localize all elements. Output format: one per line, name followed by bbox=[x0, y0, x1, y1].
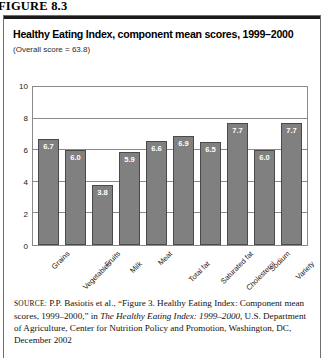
y-axis-tick-label: 2 bbox=[24, 210, 32, 219]
bar-slot: 6.7 bbox=[35, 87, 62, 245]
x-axis-label-slot: Fruits bbox=[88, 248, 115, 294]
figure-panel: Healthy Eating Index, component mean sco… bbox=[3, 15, 321, 358]
x-axis-tick-label: Milk bbox=[129, 260, 144, 275]
panel-top-rule bbox=[4, 16, 320, 19]
bar[interactable]: 6.5 bbox=[200, 142, 220, 245]
x-axis-tick-label: Variety bbox=[295, 260, 317, 282]
x-axis-label-slot: Variety bbox=[279, 248, 306, 294]
x-axis-label-slot: Meat bbox=[143, 248, 170, 294]
x-axis-label-slot: Grains bbox=[34, 248, 61, 294]
figure-number-label: FIGURE 8.3 bbox=[0, 0, 67, 13]
bar-slot: 6.5 bbox=[197, 87, 224, 245]
x-axis-category-labels: GrainsVegetablesFruitsMilkMeatTotal fatS… bbox=[32, 248, 308, 294]
bars-layer: 6.76.03.85.96.66.96.57.76.07.7 bbox=[33, 87, 307, 245]
bar[interactable]: 5.9 bbox=[119, 152, 139, 245]
bar-value-label: 6.5 bbox=[201, 145, 219, 154]
y-axis-tick-label: 0 bbox=[24, 242, 32, 251]
x-axis-label-slot: Sodium bbox=[252, 248, 279, 294]
figure-container: FIGURE 8.3 Healthy Eating Index, compone… bbox=[0, 0, 324, 358]
x-axis-label-slot: Total fat bbox=[170, 248, 197, 294]
chart-title: Healthy Eating Index, component mean sco… bbox=[13, 28, 313, 40]
bar[interactable]: 7.7 bbox=[227, 123, 247, 245]
x-axis-label-slot: Cholesterol bbox=[224, 248, 251, 294]
bar-slot: 6.0 bbox=[251, 87, 278, 245]
bar-value-label: 6.0 bbox=[255, 153, 273, 162]
bar-value-label: 6.7 bbox=[39, 142, 57, 151]
bar-slot: 7.7 bbox=[278, 87, 305, 245]
x-axis-label-slot: Vegetables bbox=[61, 248, 88, 294]
plot-area: 6.76.03.85.96.66.96.57.76.07.7 bbox=[32, 86, 308, 246]
bar-value-label: 7.7 bbox=[282, 126, 300, 135]
bar-slot: 7.7 bbox=[224, 87, 251, 245]
bar[interactable]: 3.8 bbox=[92, 185, 112, 245]
bar[interactable]: 6.9 bbox=[173, 136, 193, 245]
y-axis-tick-label: 4 bbox=[24, 178, 32, 187]
bar-value-label: 7.7 bbox=[228, 126, 246, 135]
bar-value-label: 6.0 bbox=[66, 153, 84, 162]
chart-subtitle: (Overall score = 63.8) bbox=[13, 45, 90, 55]
y-axis-tick-label: 8 bbox=[24, 114, 32, 123]
bar-slot: 5.9 bbox=[116, 87, 143, 245]
source-note: source: P.P. Basiotis et al., “Figure 3.… bbox=[14, 297, 310, 346]
bar[interactable]: 6.0 bbox=[65, 150, 85, 245]
bar-slot: 6.6 bbox=[143, 87, 170, 245]
x-axis-label-slot: Milk bbox=[116, 248, 143, 294]
bar-value-label: 5.9 bbox=[120, 155, 138, 164]
plot-wrapper: 1086420 6.76.03.85.96.66.96.57.76.07.7 G… bbox=[13, 86, 313, 246]
bar-slot: 6.9 bbox=[170, 87, 197, 245]
bar-value-label: 6.9 bbox=[174, 139, 192, 148]
y-axis-tick-label: 6 bbox=[24, 146, 32, 155]
bar-slot: 6.0 bbox=[62, 87, 89, 245]
source-kicker: source: bbox=[14, 299, 47, 308]
bar-slot: 3.8 bbox=[89, 87, 116, 245]
bar[interactable]: 6.7 bbox=[38, 139, 58, 245]
bar[interactable]: 6.0 bbox=[254, 150, 274, 245]
bar[interactable]: 7.7 bbox=[281, 123, 301, 245]
y-axis-tick-label: 10 bbox=[19, 82, 32, 91]
source-publication-title: The Healthy Eating Index: 1999–2000, bbox=[100, 311, 242, 321]
bar-value-label: 6.6 bbox=[147, 144, 165, 153]
bar[interactable]: 6.6 bbox=[146, 141, 166, 245]
x-axis-label-slot: Saturated fat bbox=[197, 248, 224, 294]
bar-value-label: 3.8 bbox=[93, 188, 111, 197]
